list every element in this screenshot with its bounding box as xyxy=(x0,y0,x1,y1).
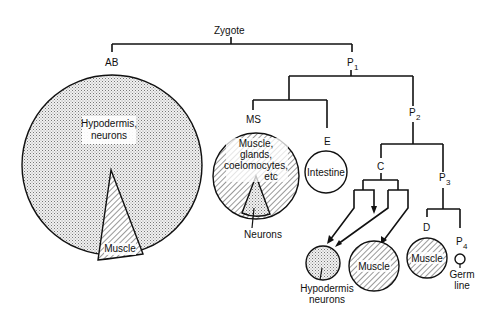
node-c: C xyxy=(377,161,384,172)
node-ms: MS xyxy=(246,114,261,125)
node-p1: P xyxy=(347,57,354,68)
lineage-diagram: Zygote AB P 1 MS E P 2 C P 3 D P 4 Hypod… xyxy=(0,0,502,312)
node-p2: P xyxy=(409,107,416,118)
c-hypodermis-circle: Hypodermis neurons xyxy=(300,246,353,305)
p4-fate-line: line xyxy=(454,280,470,291)
node-p3-sub: 3 xyxy=(446,178,451,187)
node-ab: AB xyxy=(105,57,119,68)
ms-fate-circle: Muscle, glands, coelomocytes, etc Neuron… xyxy=(213,133,299,240)
ab-fate-neurons: neurons xyxy=(91,130,127,141)
c-fate-muscle: Muscle xyxy=(358,261,390,272)
node-e: E xyxy=(324,136,331,147)
d-fate-muscle: Muscle xyxy=(411,253,443,264)
ms-fate-etc: etc xyxy=(264,171,277,182)
ms-wedge-neurons: Neurons xyxy=(244,229,282,240)
p4-germline-circle: Germ line xyxy=(450,254,475,291)
node-p4-sub: 4 xyxy=(463,242,468,251)
c-fate-neurons: neurons xyxy=(309,294,345,305)
node-p1-sub: 1 xyxy=(354,63,359,72)
p4-fate-germ: Germ xyxy=(450,269,475,280)
ab-fate-circle: Hypodermis, neurons Muscle xyxy=(22,75,202,260)
ab-wedge-muscle: Muscle xyxy=(104,243,136,254)
d-muscle-circle: Muscle xyxy=(407,238,447,278)
node-p3: P xyxy=(439,172,446,183)
c-fate-hypodermis: Hypodermis xyxy=(300,283,353,294)
ms-fate-glands: glands, xyxy=(240,149,272,160)
node-d: D xyxy=(423,222,430,233)
node-zygote: Zygote xyxy=(214,25,245,36)
e-fate-intestine: Intestine xyxy=(307,167,345,178)
node-p4: P xyxy=(456,236,463,247)
node-p2-sub: 2 xyxy=(416,113,421,122)
ms-fate-muscle: Muscle, xyxy=(239,138,273,149)
ms-fate-coelomocytes: coelomocytes, xyxy=(224,160,288,171)
c-muscle-circle: Muscle xyxy=(349,241,399,291)
ab-fate-hypodermis: Hypodermis, xyxy=(81,118,137,129)
e-fate-circle: Intestine xyxy=(305,151,347,193)
